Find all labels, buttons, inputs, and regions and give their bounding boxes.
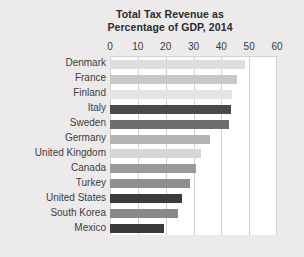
bar-mexico (110, 224, 164, 233)
x-tick-label-10: 10 (132, 41, 143, 52)
x-axis-tick-labels: 0102030405060 (0, 41, 304, 54)
category-label-south-korea: South Korea (0, 207, 106, 218)
bar-germany (110, 135, 210, 144)
bar-finland (110, 90, 232, 99)
x-tick-label-40: 40 (216, 41, 227, 52)
chart-title-line-2: Percentage of GDP, 2014 (60, 21, 280, 34)
bar-france (110, 75, 237, 84)
category-label-italy: Italy (0, 102, 106, 113)
category-label-france: France (0, 72, 106, 83)
chart-title: Total Tax Revenue as Percentage of GDP, … (60, 8, 280, 34)
plot-area (110, 56, 277, 235)
x-tick-label-60: 60 (271, 41, 282, 52)
bar-south-korea (110, 209, 178, 218)
category-label-canada: Canada (0, 162, 106, 173)
bar-united-kingdom (110, 149, 201, 158)
x-tick-label-20: 20 (160, 41, 171, 52)
bar-turkey (110, 179, 190, 188)
bar-sweden (110, 120, 229, 129)
category-label-mexico: Mexico (0, 222, 106, 233)
bar-denmark (110, 60, 245, 69)
bar-united-states (110, 194, 182, 203)
bars-layer (110, 57, 277, 235)
tax-revenue-bar-chart: Total Tax Revenue as Percentage of GDP, … (0, 0, 304, 257)
category-label-denmark: Denmark (0, 57, 106, 68)
category-label-united-kingdom: United Kingdom (0, 147, 106, 158)
category-label-united-states: United States (0, 192, 106, 203)
category-label-sweden: Sweden (0, 117, 106, 128)
y-axis-category-labels: DenmarkFranceFinlandItalySwedenGermanyUn… (0, 56, 106, 235)
x-tick-label-30: 30 (188, 41, 199, 52)
category-label-finland: Finland (0, 87, 106, 98)
bar-canada (110, 164, 196, 173)
chart-title-line-1: Total Tax Revenue as (60, 8, 280, 21)
x-tick-label-50: 50 (244, 41, 255, 52)
x-tick-label-0: 0 (107, 41, 113, 52)
category-label-turkey: Turkey (0, 177, 106, 188)
category-label-germany: Germany (0, 132, 106, 143)
bar-italy (110, 105, 231, 114)
